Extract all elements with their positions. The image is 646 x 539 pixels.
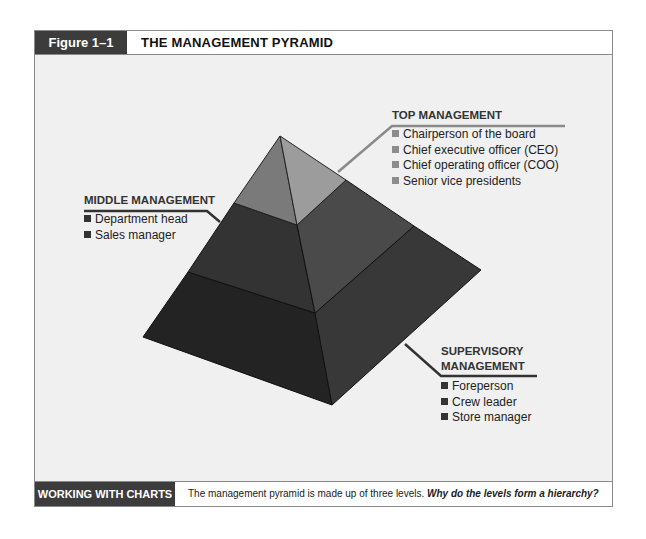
bullet-icon [84,231,91,238]
management-pyramid [0,0,646,539]
bullet-icon [441,398,448,405]
top-management-title: TOP MANAGEMENT [392,108,559,123]
bullet-icon [392,130,399,137]
bullet-icon [392,161,399,168]
middle-management-list: Department head Sales manager [84,212,215,243]
list-item: Store manager [441,410,531,426]
list-item: Chief executive officer (CEO) [392,143,559,159]
middle-management-title: MIDDLE MANAGEMENT [84,193,215,208]
top-management-list: Chairperson of the board Chief executive… [392,127,559,189]
top-management-label: TOP MANAGEMENT Chairperson of the board … [392,108,559,189]
list-item: Foreperson [441,379,531,395]
supervisory-management-list: Foreperson Crew leader Store manager [441,379,531,426]
list-item: Chairperson of the board [392,127,559,143]
bullet-icon [441,382,448,389]
list-item: Senior vice presidents [392,174,559,190]
list-item: Sales manager [84,228,215,244]
bullet-icon [84,215,91,222]
list-item: Chief operating officer (COO) [392,158,559,174]
supervisory-title-line1: SUPERVISORY [441,344,531,359]
list-item: Department head [84,212,215,228]
list-item: Crew leader [441,395,531,411]
supervisory-management-label: SUPERVISORY MANAGEMENT Foreperson Crew l… [441,344,531,426]
bullet-icon [441,413,448,420]
bullet-icon [392,177,399,184]
supervisory-title-line2: MANAGEMENT [441,359,531,374]
bullet-icon [392,146,399,153]
middle-management-label: MIDDLE MANAGEMENT Department head Sales … [84,193,215,243]
